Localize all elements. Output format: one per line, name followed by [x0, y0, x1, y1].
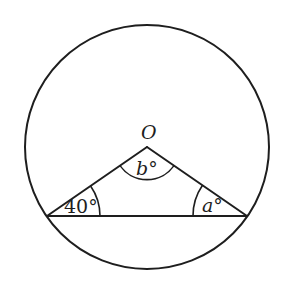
geometry-diagram: O b° 40° a°: [0, 0, 282, 289]
label-angle-a: a°: [202, 194, 223, 216]
label-center-o: O: [141, 121, 157, 143]
label-angle-40: 40°: [64, 195, 98, 217]
label-angle-b: b°: [136, 157, 158, 179]
radius-right: [147, 147, 247, 216]
